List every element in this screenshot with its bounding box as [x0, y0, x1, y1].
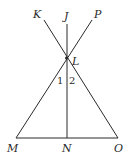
label-L: L: [71, 55, 79, 68]
point-L-dot: [65, 57, 68, 60]
geometry-diagram: K J P L M N O 1 2: [0, 0, 131, 160]
label-N: N: [61, 142, 72, 155]
label-M: M: [6, 142, 19, 155]
angle-label-1: 1: [57, 75, 63, 86]
label-P: P: [93, 8, 102, 21]
label-J: J: [62, 10, 69, 23]
label-K: K: [32, 8, 42, 21]
angle-label-2: 2: [69, 75, 75, 86]
label-O: O: [114, 142, 123, 155]
